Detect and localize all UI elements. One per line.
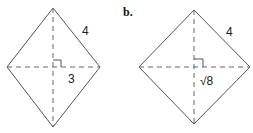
rhombus-a: 4 3 xyxy=(7,8,100,127)
half-diagonal-label-a: 3 xyxy=(68,72,75,86)
right-angle-marker-b xyxy=(194,59,203,67)
rhombus-b: b. 4 √8 xyxy=(123,5,250,124)
right-angle-marker-a xyxy=(53,60,61,67)
side-label-a: 4 xyxy=(82,24,89,38)
side-label-b: 4 xyxy=(226,25,233,39)
figure-label-b: b. xyxy=(123,5,133,19)
half-diagonal-label-b: √8 xyxy=(200,74,214,88)
diagram-canvas: 4 3 b. 4 √8 xyxy=(0,0,253,133)
